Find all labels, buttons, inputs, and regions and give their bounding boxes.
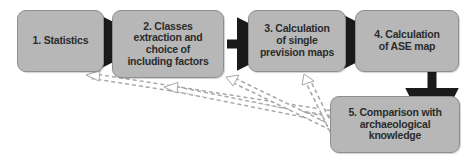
flow-node-classes-extraction[interactable]: 2. Classes extraction and choice of incl… xyxy=(112,10,224,78)
flow-node-comparison-archaeological-label: 5. Comparison with archaeological knowle… xyxy=(345,107,444,142)
flow-node-statistics[interactable]: 1. Statistics xyxy=(17,10,104,72)
flow-node-single-prevision-maps-label: 3. Calculation of single prevision maps xyxy=(257,23,337,58)
flow-node-classes-extraction-label: 2. Classes extraction and choice of incl… xyxy=(124,21,211,68)
flow-node-statistics-label: 1. Statistics xyxy=(30,35,92,47)
flow-node-single-prevision-maps[interactable]: 3. Calculation of single prevision maps xyxy=(248,10,346,72)
flow-node-comparison-archaeological[interactable]: 5. Comparison with archaeological knowle… xyxy=(330,96,460,153)
flow-node-ase-map-label: 4. Calculation of ASE map xyxy=(371,29,442,53)
flowchart-diagram: 1. Statistics 2. Classes extraction and … xyxy=(0,0,474,164)
flow-node-ase-map[interactable]: 4. Calculation of ASE map xyxy=(355,10,459,72)
